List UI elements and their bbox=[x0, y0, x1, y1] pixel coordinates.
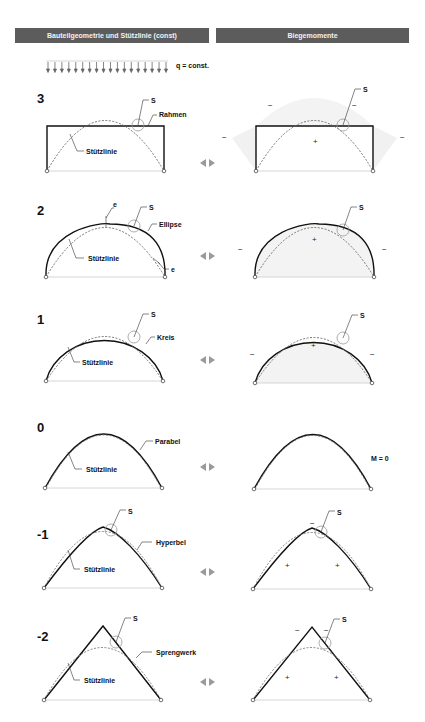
svg-text:S: S bbox=[149, 204, 154, 211]
svg-text:Stützlinie: Stützlinie bbox=[88, 255, 119, 262]
geometry-panel: S Rahmen Stützlinie bbox=[45, 97, 186, 173]
moment-panel bbox=[252, 435, 373, 491]
svg-text:e: e bbox=[171, 266, 175, 273]
svg-text:Ellipse: Ellipse bbox=[159, 221, 182, 229]
geometry-panel: S Kreis Stützlinie bbox=[44, 311, 174, 383]
svg-text:−: − bbox=[310, 519, 315, 528]
left-right-arrows-icon bbox=[200, 159, 215, 167]
moment-panel: S − + − bbox=[238, 204, 387, 279]
svg-text:−: − bbox=[222, 133, 227, 142]
diagram-row-kreis: S Kreis Stützlinie S − + − bbox=[0, 300, 425, 400]
diagram-row-hyperbel: S Hyperbel Stützlinie S − + + bbox=[0, 505, 425, 610]
svg-text:Stützlinie: Stützlinie bbox=[86, 148, 117, 155]
svg-text:+: + bbox=[285, 561, 290, 570]
svg-text:S: S bbox=[360, 312, 365, 319]
svg-text:Sprengwerk: Sprengwerk bbox=[156, 649, 196, 657]
header-bending-moments: Biegemomente bbox=[216, 28, 409, 43]
svg-text:−: − bbox=[400, 133, 405, 142]
svg-text:S: S bbox=[151, 97, 156, 104]
left-right-arrows-icon bbox=[200, 678, 215, 686]
moment-panel: S − − − − + bbox=[222, 86, 405, 173]
load-label: q = const. bbox=[176, 62, 209, 69]
svg-text:−: − bbox=[382, 245, 387, 254]
svg-text:Rahmen: Rahmen bbox=[159, 111, 187, 118]
left-right-arrows-icon bbox=[200, 568, 215, 576]
geometry-panel: e e S Ellipse Stützlinie bbox=[44, 201, 181, 279]
diagram-row-parabel: Parabel Stützlinie bbox=[0, 410, 425, 505]
svg-text:Parabel: Parabel bbox=[155, 438, 180, 445]
moment-panel: S − + + bbox=[251, 509, 373, 591]
svg-text:+: + bbox=[334, 673, 339, 682]
svg-text:Stützlinie: Stützlinie bbox=[84, 677, 115, 684]
svg-text:Stützlinie: Stützlinie bbox=[84, 566, 115, 573]
svg-text:S: S bbox=[133, 615, 138, 622]
svg-text:−: − bbox=[238, 245, 243, 254]
svg-text:−: − bbox=[295, 626, 300, 635]
svg-text:e: e bbox=[113, 201, 117, 208]
header-geometry: Bauteilgeometrie und Stützlinie (const) bbox=[15, 28, 209, 43]
svg-text:+: + bbox=[335, 561, 340, 570]
svg-text:+: + bbox=[285, 673, 290, 682]
svg-text:Stützlinie: Stützlinie bbox=[86, 466, 117, 473]
svg-text:Stützlinie: Stützlinie bbox=[82, 359, 113, 366]
svg-text:S: S bbox=[359, 204, 364, 211]
svg-text:Hyperbel: Hyperbel bbox=[156, 539, 186, 547]
geometry-panel: S Sprengwerk Stützlinie bbox=[42, 615, 196, 702]
svg-text:−: − bbox=[250, 350, 255, 359]
svg-text:+: + bbox=[312, 235, 317, 244]
svg-text:+: + bbox=[313, 137, 318, 146]
svg-text:S: S bbox=[128, 508, 133, 515]
left-right-arrows-icon bbox=[200, 252, 215, 260]
svg-text:S: S bbox=[342, 616, 347, 623]
geometry-panel: Parabel Stützlinie bbox=[43, 434, 180, 490]
svg-text:S: S bbox=[337, 509, 342, 516]
left-right-arrows-icon bbox=[200, 356, 215, 364]
svg-text:−: − bbox=[352, 101, 357, 110]
left-right-arrows-icon bbox=[200, 463, 215, 471]
moment-panel: S − + − bbox=[250, 312, 375, 385]
svg-text:S: S bbox=[151, 311, 156, 318]
svg-text:S: S bbox=[363, 86, 368, 93]
moment-panel: S − − + + bbox=[251, 616, 372, 702]
zero-moment-note: M = 0 bbox=[371, 455, 389, 462]
distributed-load-arrows-icon bbox=[46, 60, 168, 74]
svg-text:−: − bbox=[370, 350, 375, 359]
diagram-row-ellipse: e e S Ellipse Stützlinie S − + − bbox=[0, 190, 425, 290]
svg-text:−: − bbox=[268, 101, 273, 110]
svg-text:+: + bbox=[311, 341, 316, 350]
diagram-row-sprengwerk: S Sprengwerk Stützlinie S − − + + bbox=[0, 605, 425, 722]
svg-text:−: − bbox=[324, 626, 329, 635]
svg-text:Kreis: Kreis bbox=[157, 334, 175, 341]
geometry-panel: S Hyperbel Stützlinie bbox=[42, 508, 186, 590]
diagram-row-rahmen: S Rahmen Stützlinie S − − − − + bbox=[0, 80, 425, 180]
